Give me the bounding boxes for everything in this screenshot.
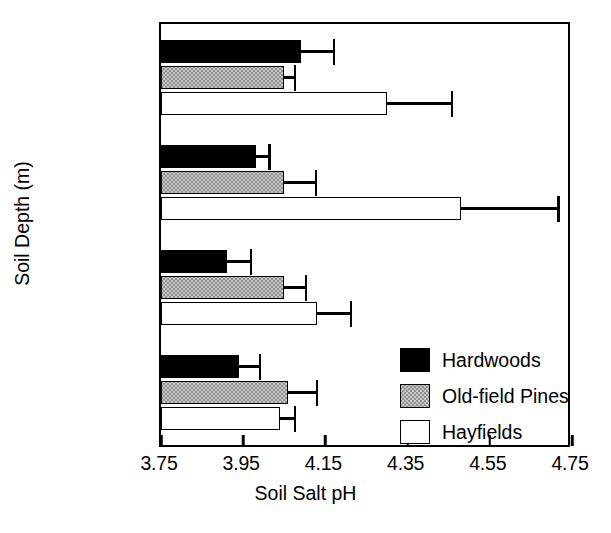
error-bar-line-oldfield-0.875-1.1: [288, 391, 316, 393]
x-axis-tick: [242, 435, 245, 446]
bar-hardwoods-0-0.3: [161, 40, 301, 63]
error-bar-line-hardwoods-0.3-0.55: [256, 155, 270, 157]
legend-entry-old-field-pines: Old-field Pines: [400, 378, 569, 414]
bar-oldfield-0-0.3: [161, 66, 284, 89]
error-bar-line-hardwoods-0-0.3: [301, 50, 334, 52]
x-axis-tick-label: 4.35: [387, 452, 424, 475]
error-bar-line-oldfield-0.55-0.875: [284, 286, 306, 288]
open-white-swatch-icon: [400, 420, 430, 444]
bar-hardwoods-0.875-1.1: [161, 355, 239, 378]
x-axis-tick-label: 3.95: [223, 452, 260, 475]
bar-hayfields-0.55-0.875: [161, 302, 317, 325]
bar-hayfields-0-0.3: [161, 92, 387, 115]
stippled-gray-swatch-icon: [400, 384, 430, 408]
bar-oldfield-0.3-0.55: [161, 171, 284, 194]
error-bar-cap-hayfields-0.55-0.875: [350, 301, 352, 327]
plot-area: Hardwoods Old-field Pines Hayfields: [159, 22, 570, 447]
x-axis-title: Soil Salt pH: [0, 482, 611, 505]
x-axis-tick: [324, 435, 327, 446]
legend-label-hayfields: Hayfields: [442, 421, 522, 444]
error-bar-cap-oldfield-0-0.3: [294, 65, 296, 91]
solid-black-swatch-icon: [400, 348, 430, 372]
error-bar-cap-hardwoods-0.875-1.1: [259, 354, 261, 380]
bar-hayfields-0.875-1.1: [161, 407, 280, 430]
error-bar-cap-hayfields-0.875-1.1: [294, 406, 296, 432]
legend-entry-hardwoods: Hardwoods: [400, 342, 569, 378]
bar-oldfield-0.55-0.875: [161, 276, 284, 299]
error-bar-cap-hardwoods-0-0.3: [333, 39, 335, 65]
bar-oldfield-0.875-1.1: [161, 381, 288, 404]
x-axis-tick-label: 4.75: [551, 452, 588, 475]
legend: Hardwoods Old-field Pines Hayfields: [400, 342, 569, 450]
x-axis-tick-label: 4.55: [469, 452, 506, 475]
error-bar-cap-oldfield-0.55-0.875: [305, 275, 307, 301]
bar-hayfields-0.3-0.55: [161, 197, 461, 220]
legend-label-old-field-pines: Old-field Pines: [442, 385, 569, 408]
legend-label-hardwoods: Hardwoods: [442, 349, 541, 372]
x-axis-tick-label: 4.15: [305, 452, 342, 475]
legend-entry-hayfields: Hayfields: [400, 414, 569, 450]
error-bar-line-hardwoods-0.55-0.875: [227, 260, 251, 262]
x-axis-tick: [571, 435, 574, 446]
error-bar-cap-hayfields-0-0.3: [451, 91, 453, 117]
x-axis-tick: [160, 435, 163, 446]
error-bar-line-hayfields-0.55-0.875: [317, 312, 351, 314]
error-bar-cap-hardwoods-0.55-0.875: [250, 249, 252, 275]
y-axis-title: Soil Depth (m): [11, 114, 34, 334]
error-bar-cap-hardwoods-0.3-0.55: [268, 144, 270, 170]
error-bar-line-oldfield-0.3-0.55: [284, 181, 316, 183]
soil-salt-ph-bar-chart: Soil Depth (m) 0-0.30.3-0.550.55-0.8750.…: [0, 0, 611, 533]
bar-hardwoods-0.55-0.875: [161, 250, 227, 273]
error-bar-line-hardwoods-0.875-1.1: [239, 365, 260, 367]
error-bar-cap-oldfield-0.875-1.1: [316, 380, 318, 406]
error-bar-cap-hayfields-0.3-0.55: [557, 196, 559, 222]
x-axis-tick-label: 3.75: [140, 452, 177, 475]
error-bar-line-hayfields-0-0.3: [387, 102, 452, 104]
bar-hardwoods-0.3-0.55: [161, 145, 256, 168]
error-bar-cap-oldfield-0.3-0.55: [315, 170, 317, 196]
error-bar-line-hayfields-0.3-0.55: [461, 207, 558, 209]
error-bar-line-hayfields-0.875-1.1: [280, 417, 295, 419]
